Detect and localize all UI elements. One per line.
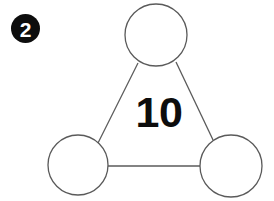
top-node[interactable] <box>125 4 187 66</box>
bottom-left-node[interactable] <box>48 135 108 195</box>
problem-number-badge: 2 <box>11 14 40 43</box>
diagram-canvas: 10 2 <box>0 0 274 201</box>
badge-number: 2 <box>20 18 32 41</box>
bottom-right-node[interactable] <box>200 135 262 197</box>
center-sum-label: 10 <box>136 88 183 136</box>
triangle-node-diagram: 10 2 <box>0 0 274 201</box>
edge-top-to-bottom-left <box>98 63 138 143</box>
